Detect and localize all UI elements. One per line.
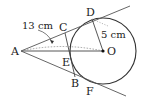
dimension-arc-ao [21,47,103,52]
label-d: D [86,6,95,19]
label-ao-length: 13 cm [22,20,54,31]
label-e: E [62,56,70,69]
label-a: A [10,45,20,58]
tangent-circle-diagram: A O C D E B F 13 cm 5 cm [0,0,146,103]
center-dot [101,49,104,52]
label-od-length: 5 cm [101,29,126,40]
label-f: F [86,85,94,98]
label-o: O [107,45,116,58]
label-c: C [59,21,67,34]
arrowhead-icon [50,40,54,44]
label-b: B [71,77,79,90]
pointer-arrow [38,30,52,42]
